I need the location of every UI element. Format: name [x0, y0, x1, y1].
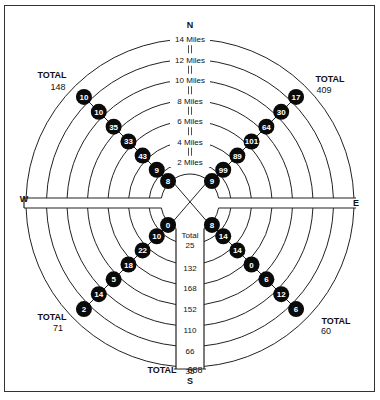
distance-rings — [24, 39, 356, 369]
ring-upper-8-miles — [88, 100, 293, 198]
mile-label-6: 6 Miles — [177, 117, 202, 126]
count-value: 14 — [233, 246, 242, 255]
south-value: 132 — [183, 264, 197, 273]
count-value: 99 — [219, 166, 228, 175]
mile-label-4: 4 Miles — [177, 138, 202, 147]
count-value: 6 — [294, 305, 299, 314]
total-label-se: TOTAL — [321, 316, 351, 326]
count-value: 22 — [138, 246, 147, 255]
count-value: 2 — [82, 305, 87, 314]
count-value: 33 — [124, 137, 133, 146]
mile-label-14: 14 Miles — [175, 35, 205, 44]
total-label-nw: TOTAL — [37, 70, 67, 80]
count-value: 8 — [210, 221, 215, 230]
south-center-label: Total — [182, 231, 199, 240]
count-value: 64 — [262, 123, 271, 132]
count-value: 30 — [277, 108, 286, 117]
south-value: 110 — [184, 326, 197, 335]
diagonal-nw-se — [172, 181, 210, 225]
mile-label-2: 2 Miles — [177, 158, 202, 167]
count-value: 0 — [166, 221, 171, 230]
count-value: 6 — [264, 275, 269, 284]
total-value-sw: 71 — [53, 323, 63, 333]
count-value: 10 — [94, 108, 103, 117]
count-value: 14 — [94, 290, 103, 299]
compass-west: W — [20, 194, 29, 204]
compass-north: N — [187, 20, 194, 30]
count-value: 12 — [277, 290, 286, 299]
count-value: 0 — [249, 261, 254, 270]
count-value: 17 — [292, 93, 301, 102]
south-value: 168 — [183, 284, 197, 293]
count-value: 9 — [155, 166, 160, 175]
total-label-sw: TOTAL — [37, 312, 67, 322]
count-value: 5 — [111, 275, 116, 284]
south-value: 66 — [186, 347, 195, 356]
count-value: 43 — [138, 152, 147, 161]
compass-south: S — [187, 376, 193, 386]
count-value: 10 — [79, 93, 88, 102]
total-label-ne: TOTAL — [315, 74, 345, 84]
mile-labels: 2 Miles4 Miles6 Miles8 Miles10 Miles12 M… — [170, 34, 210, 167]
compass-east: E — [353, 198, 359, 208]
south-value: 152 — [183, 305, 197, 314]
diagonal-ne-sw — [170, 181, 208, 225]
mile-label-8: 8 Miles — [177, 97, 202, 106]
total-value-nw: 148 — [50, 82, 65, 92]
count-value: 10 — [152, 232, 161, 241]
mile-label-10: 10 Miles — [175, 76, 205, 85]
count-value: 8 — [166, 177, 171, 186]
south-value: 25 — [186, 241, 195, 250]
count-value: 89 — [233, 152, 242, 161]
count-value: 35 — [109, 123, 118, 132]
count-value: 9 — [210, 177, 215, 186]
count-value: 101 — [245, 137, 259, 146]
count-value: 14 — [219, 232, 228, 241]
total-value-se: 60 — [321, 326, 331, 336]
mile-label-12: 12 Miles — [175, 56, 205, 65]
radial-distance-diagram: 8943333510109998910164301701022185142814… — [0, 0, 380, 400]
total-value-ne: 409 — [316, 85, 331, 95]
south-total-value: 688 — [187, 365, 202, 375]
south-total-label: TOTAL — [147, 365, 177, 375]
count-value: 18 — [124, 261, 133, 270]
